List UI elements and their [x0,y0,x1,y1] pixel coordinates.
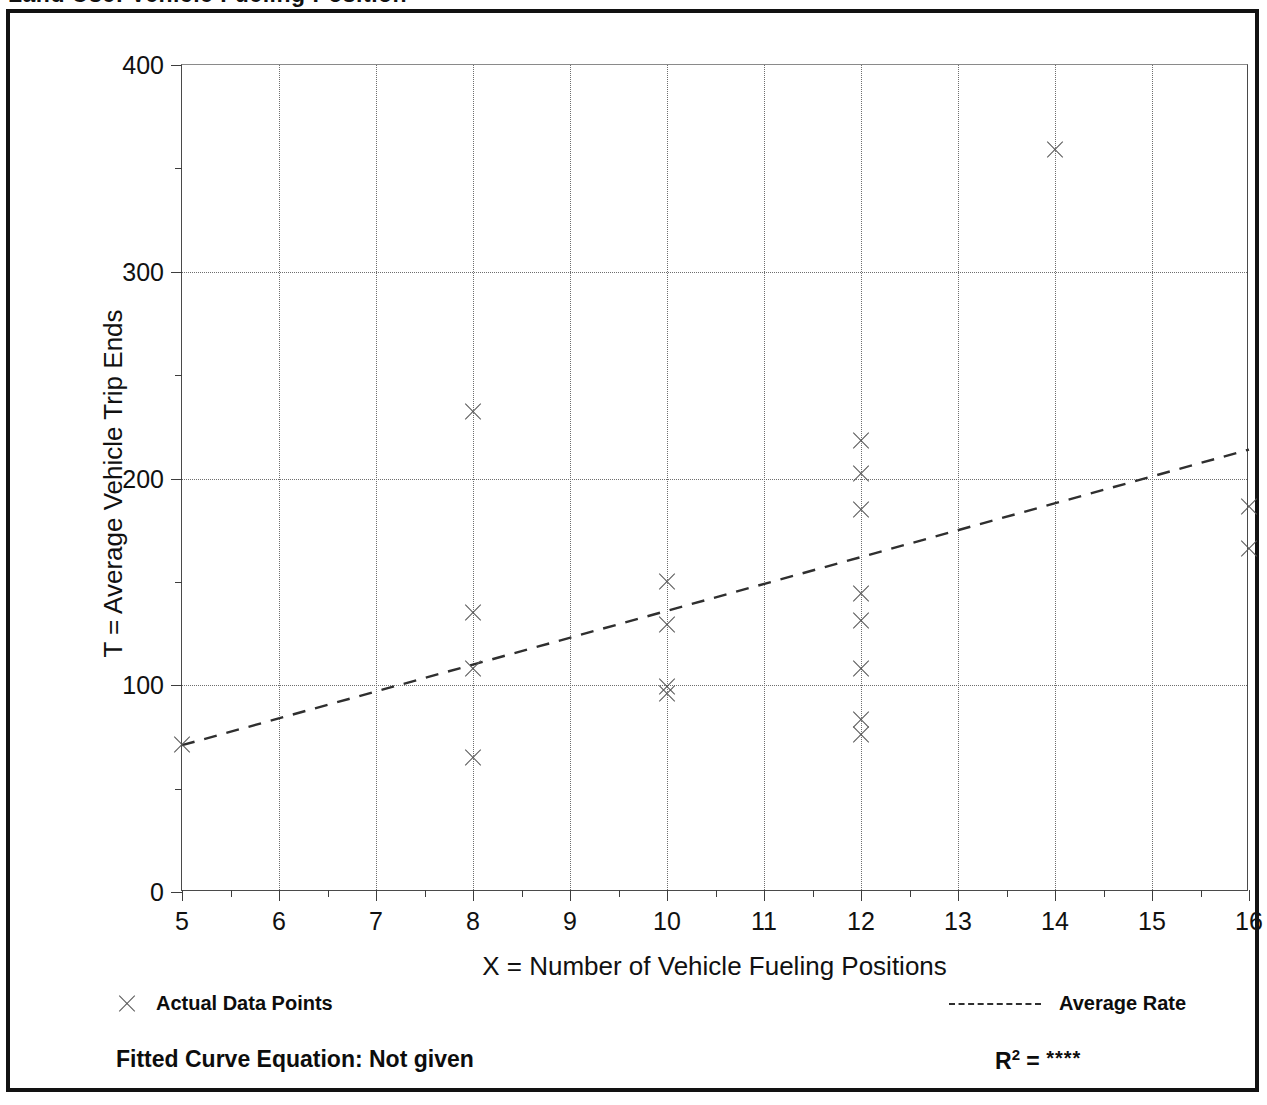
data-point-marker [850,658,872,680]
x-axis-tick-label: 10 [653,907,681,936]
data-point-marker [656,683,678,705]
r-squared-value: **** [1046,1047,1081,1069]
y-axis-tick [171,479,182,480]
data-point-marker [462,658,484,680]
x-axis-tick [1249,890,1250,901]
data-point-marker [850,724,872,746]
figure-frame: 01002003004005678910111213141516 X = Num… [6,9,1259,1092]
fitted-curve-equation: Fitted Curve Equation: Not given [116,1046,474,1073]
x-axis-tick-label: 15 [1138,907,1166,936]
r-squared-exponent: 2 [1012,1046,1020,1063]
r-squared-annotation: R2 = **** [995,1046,1081,1075]
cut-off-title: Land Use: Vehicle Fueling Position [0,0,1267,9]
data-point-marker [1044,139,1066,161]
plot-area: 01002003004005678910111213141516 [181,64,1248,891]
x-axis-tick-label: 16 [1235,907,1263,936]
y-axis-tick [171,685,182,686]
x-axis-tick-label: 7 [369,907,383,936]
legend-label-actual-data-points: Actual Data Points [156,992,333,1015]
y-axis-minor-tick [175,375,182,376]
data-point-marker [850,463,872,485]
y-axis-minor-tick [175,789,182,790]
r-squared-symbol: R [995,1048,1012,1074]
x-axis-tick-label: 11 [751,907,777,936]
data-point-marker [850,610,872,632]
x-axis-tick-label: 12 [847,907,875,936]
data-point-marker [1238,538,1260,560]
data-point-marker [171,734,193,756]
x-axis-tick-label: 6 [272,907,286,936]
data-point-marker [462,602,484,624]
y-axis-tick [171,892,182,893]
x-axis-tick-label: 8 [466,907,480,936]
y-axis-minor-tick [175,582,182,583]
data-point-marker [850,499,872,521]
data-point-marker [656,614,678,636]
data-point-marker [656,571,678,593]
r-squared-equals: = [1020,1048,1046,1074]
x-axis-tick-label: 13 [944,907,972,936]
y-axis-tick-label: 0 [150,878,164,907]
y-axis-tick [171,272,182,273]
data-point-marker [462,401,484,423]
data-point-marker [850,430,872,452]
data-point-marker [1238,496,1260,518]
x-axis-title: X = Number of Vehicle Fueling Positions [181,951,1248,982]
x-axis-tick-label: 5 [175,907,189,936]
y-axis-tick [171,65,182,66]
x-axis-tick-label: 14 [1041,907,1069,936]
data-point-marker [850,583,872,605]
legend-entry-average-rate: Average Rate [949,992,1186,1015]
cut-off-title-text: Land Use: Vehicle Fueling Position [8,0,407,8]
x-axis-tick-label: 9 [563,907,577,936]
average-rate-trendline [182,65,1249,892]
x-marker-icon [116,993,138,1015]
footer: Fitted Curve Equation: Not given R2 = **… [10,1046,1255,1090]
legend-label-average-rate: Average Rate [1059,992,1186,1015]
y-axis-minor-tick [175,168,182,169]
dashed-line-icon [949,1003,1041,1005]
legend-entry-actual-data-points: Actual Data Points [116,992,333,1015]
y-axis-title: T = Average Vehicle Trip Ends [98,70,129,897]
data-point-marker [462,747,484,769]
legend: Actual Data Points Average Rate [10,992,1255,1032]
